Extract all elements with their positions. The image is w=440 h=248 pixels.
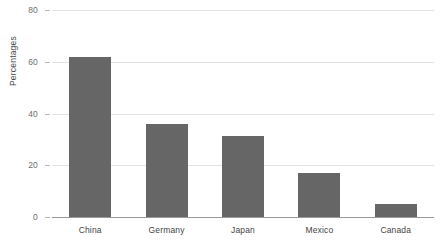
y-axis-tick-mark xyxy=(45,165,50,166)
bar[interactable] xyxy=(222,136,264,218)
y-axis-tick-mark xyxy=(45,10,50,11)
x-axis-category-label: Japan xyxy=(205,226,281,235)
bar[interactable] xyxy=(375,204,417,217)
y-axis-tick-mark xyxy=(45,217,50,218)
x-axis-category-label: Germany xyxy=(128,226,204,235)
bar[interactable] xyxy=(298,173,340,217)
y-axis-title-container: Percentages xyxy=(14,0,28,248)
y-axis-tick-mark xyxy=(45,62,50,63)
x-axis-baseline xyxy=(52,217,434,218)
gridline xyxy=(52,10,434,11)
y-axis-tick-mark xyxy=(45,114,50,115)
bar-chart: Percentages 020406080ChinaGermanyJapanMe… xyxy=(0,0,440,248)
bar[interactable] xyxy=(146,124,188,217)
y-axis-tick-label: 40 xyxy=(0,110,38,119)
bar[interactable] xyxy=(69,57,111,217)
y-axis-tick-label: 0 xyxy=(0,213,38,222)
x-axis-category-label: Canada xyxy=(358,226,434,235)
x-axis-category-label: China xyxy=(52,226,128,235)
y-axis-tick-label: 20 xyxy=(0,161,38,170)
x-axis-category-label: Mexico xyxy=(281,226,357,235)
y-axis-tick-label: 80 xyxy=(0,6,38,15)
plot-area: 020406080ChinaGermanyJapanMexicoCanada xyxy=(52,10,434,217)
y-axis-tick-label: 60 xyxy=(0,58,38,67)
